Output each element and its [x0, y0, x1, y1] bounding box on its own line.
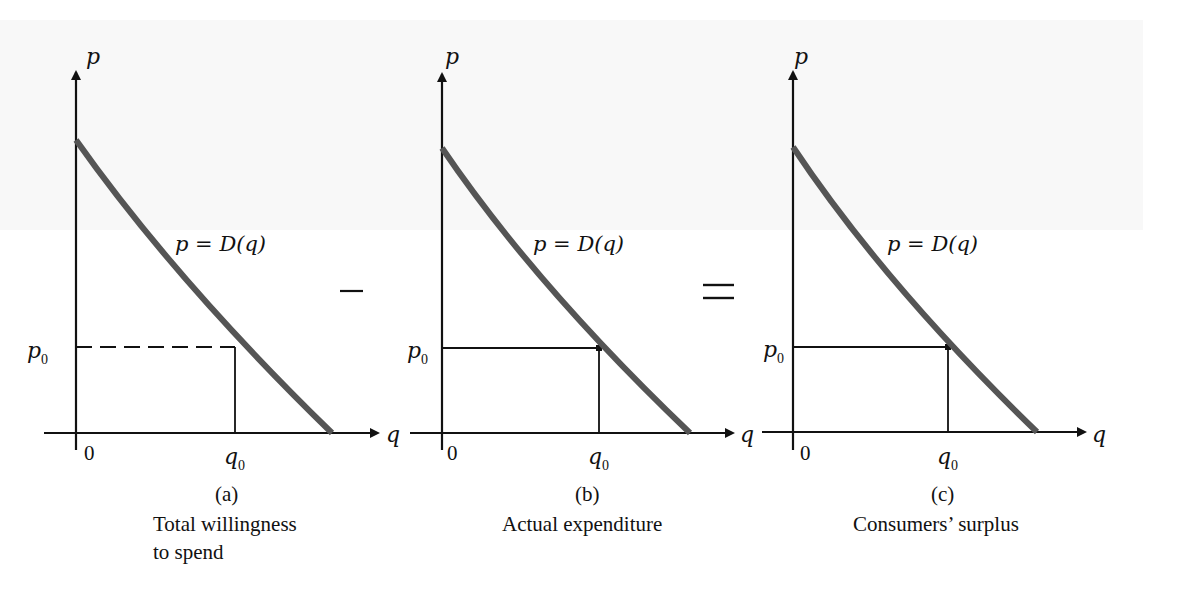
panel-a-letter: (a): [215, 481, 238, 508]
demand-curve: [793, 147, 1037, 432]
p0-label: p0: [763, 337, 784, 366]
demand-curve: [442, 148, 690, 433]
origin-label: 0: [447, 441, 458, 465]
panel-c: p q 0 p0 q0 p = D(q): [762, 44, 1106, 473]
panel-c-letter: (c): [931, 481, 954, 508]
q0-label: q0: [224, 444, 245, 473]
demand-curve-label: p = D(q): [887, 232, 978, 256]
q0-label: q0: [937, 444, 958, 473]
origin-label: 0: [84, 441, 95, 465]
demand-curve: [76, 140, 332, 433]
origin-label: 0: [800, 441, 811, 465]
demand-curve-label: p = D(q): [175, 232, 266, 256]
p0-label: p0: [407, 338, 428, 367]
demand-curve-label: p = D(q): [533, 232, 624, 256]
y-axis-label: p: [445, 44, 459, 69]
panel-c-caption: Consumers’ surplus: [853, 511, 1019, 538]
panel-a: p q 0 p0 q0 p = D(q): [27, 44, 400, 473]
x-axis-label: q: [740, 422, 754, 447]
x-axis-label: q: [386, 422, 400, 447]
q0-label: q0: [588, 444, 609, 473]
equals-operator: [703, 285, 734, 298]
panel-b-letter: (b): [575, 481, 600, 508]
y-axis-label: p: [86, 44, 100, 69]
p0-label: p0: [27, 338, 48, 367]
x-axis-label: q: [1092, 422, 1106, 447]
panel-b-caption: Actual expenditure: [502, 511, 662, 538]
panel-b: p q 0 p0 q0 p = D(q): [407, 44, 754, 473]
y-axis-label: p: [794, 44, 808, 69]
panel-a-caption-line-2: to spend: [153, 539, 224, 566]
panel-a-caption-line-1: Total willingness: [153, 511, 297, 538]
